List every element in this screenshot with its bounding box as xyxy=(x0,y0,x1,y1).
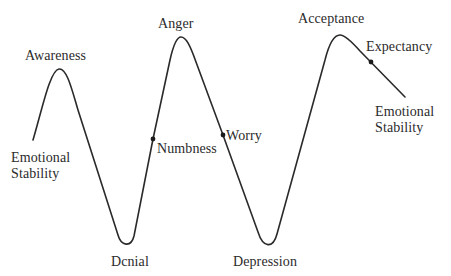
worry-marker xyxy=(221,133,226,138)
emotional-stability-right-line1: Emotional xyxy=(375,104,434,120)
acceptance-label: Acceptance xyxy=(298,11,364,27)
numbness-marker xyxy=(151,137,156,142)
anger-label: Anger xyxy=(158,16,194,32)
worry-label: Worry xyxy=(226,128,262,144)
emotional-cycle-diagram: Awareness Anger Acceptance Expectancy Em… xyxy=(0,0,451,276)
awareness-label: Awareness xyxy=(25,48,86,64)
emotional-stability-right-line2: Stability xyxy=(375,120,423,136)
expectancy-marker xyxy=(369,60,374,65)
emotional-stability-left-line2: Stability xyxy=(11,166,59,182)
numbness-label: Numbness xyxy=(157,141,217,157)
denial-label: Dcnial xyxy=(111,254,149,270)
emotional-cycle-curve xyxy=(33,35,405,245)
depression-label: Depression xyxy=(233,254,297,270)
emotional-stability-left-line1: Emotional xyxy=(11,150,70,166)
expectancy-label: Expectancy xyxy=(366,39,432,55)
